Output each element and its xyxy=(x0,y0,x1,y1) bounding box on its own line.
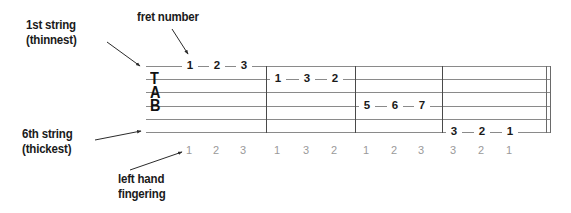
arrow-left-hand-fingering xyxy=(130,152,182,170)
arrow-fret-number xyxy=(172,29,188,54)
tablature-diagram: T A B 1 2 3 1 3 2 5 6 7 3 2 1 1 2 3 1 3 … xyxy=(0,0,571,213)
arrow-sixth-string xyxy=(95,131,141,140)
arrow-first-string xyxy=(107,42,140,66)
leader-arrows xyxy=(0,0,571,213)
